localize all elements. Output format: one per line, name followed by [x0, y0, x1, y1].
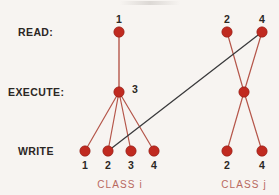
node-label-i-execute-3: 3: [132, 84, 138, 95]
graph-edge: [244, 32, 262, 92]
graph-node[interactable]: [222, 146, 232, 156]
caption-class-j: CLASS j: [221, 180, 267, 190]
graph-edge: [119, 92, 154, 151]
edges-layer: [85, 32, 262, 151]
graph-node[interactable]: [257, 27, 267, 37]
graph-node[interactable]: [257, 146, 267, 156]
row-label-read: READ:: [18, 27, 53, 38]
node-label-i-read-1: 1: [116, 14, 122, 25]
graph-node[interactable]: [114, 27, 124, 37]
graph-node[interactable]: [149, 146, 159, 156]
row-label-execute: EXECUTE:: [8, 87, 64, 98]
graph-edge: [227, 32, 244, 92]
graph-edge: [244, 92, 262, 151]
node-label-i-write-3: 3: [128, 160, 134, 171]
row-label-write: WRITE: [18, 146, 54, 157]
graph-edge: [227, 92, 244, 151]
nodes-layer: [80, 27, 267, 156]
graph-node[interactable]: [239, 87, 249, 97]
node-label-j-write-2: 2: [224, 160, 230, 171]
graph-edge: [119, 92, 131, 151]
node-label-i-write-4: 4: [151, 160, 157, 171]
figure-canvas: READ:EXECUTE:WRITE 1312342424 CLASS iCLA…: [0, 0, 279, 195]
graph-node[interactable]: [126, 146, 136, 156]
graph-node[interactable]: [80, 146, 90, 156]
node-label-j-read-2: 2: [224, 14, 230, 25]
graph-node[interactable]: [103, 146, 113, 156]
node-label-j-write-4: 4: [259, 160, 265, 171]
graph-node[interactable]: [114, 87, 124, 97]
node-label-i-write-2: 2: [105, 160, 111, 171]
node-label-i-write-1: 1: [82, 160, 88, 171]
caption-class-i: CLASS i: [97, 180, 143, 190]
node-label-j-read-4: 4: [259, 14, 265, 25]
graph-node[interactable]: [222, 27, 232, 37]
